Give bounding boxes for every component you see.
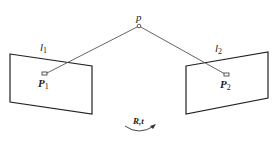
projection-p1-marker [42,72,47,75]
point-p2-label: P2 [220,78,231,92]
ray-2 [139,26,225,74]
point-p-label: p [135,11,142,23]
point-p-marker [137,24,141,28]
epipolar-diagram: p l1 l2 P1 P2 R,t [0,0,280,142]
line-l2-label: l2 [215,42,222,56]
point-p1-label: P1 [38,77,49,91]
transform-arc [125,126,154,131]
line-l1-label: l1 [40,41,47,55]
projection-p2-marker [224,73,229,76]
transform-label: R,t [132,116,144,126]
image-plane-1 [10,54,92,114]
ray-1 [47,26,139,73]
